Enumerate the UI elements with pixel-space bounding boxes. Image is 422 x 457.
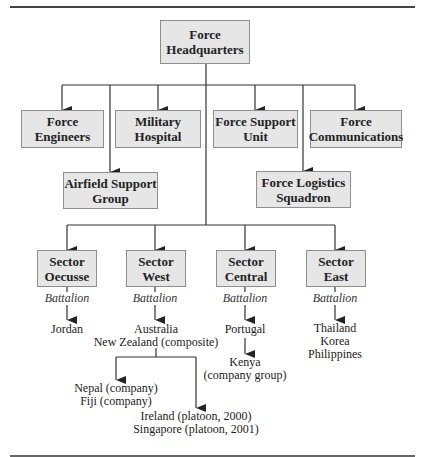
airfield-support-group-box: Airfield Support Group: [63, 172, 158, 209]
sector-central-battalion: Battalion: [223, 292, 268, 305]
sector-oecusse-label: Sector Oecusse: [45, 254, 90, 284]
force-communications-box: Force Communications: [310, 110, 402, 148]
force-support-unit-box: Force Support Unit: [213, 110, 298, 148]
sector-central-contributors: Portugal: [225, 323, 266, 336]
sector-west-label: Sector West: [138, 254, 173, 284]
sector-west-box: Sector West: [126, 250, 186, 287]
force-engineers-box: Force Engineers: [21, 110, 104, 148]
force-headquarters-label: Force Headquarters: [166, 27, 243, 57]
military-hospital-box: Military Hospital: [115, 110, 201, 148]
sector-oecusse-contributors: Jordan: [51, 323, 83, 336]
force-headquarters-box: Force Headquarters: [160, 20, 250, 64]
military-hospital-label: Military Hospital: [135, 114, 182, 144]
sector-east-label: Sector East: [318, 254, 353, 284]
airfield-support-group-label: Airfield Support Group: [64, 176, 156, 206]
force-logistics-squadron-box: Force Logistics Squadron: [256, 171, 351, 208]
force-support-unit-label: Force Support Unit: [215, 114, 295, 144]
force-engineers-label: Force Engineers: [35, 114, 91, 144]
sector-central-sub: Kenya (company group): [204, 356, 287, 382]
sector-east-box: Sector East: [306, 250, 366, 287]
sector-central-box: Sector Central: [216, 250, 276, 287]
sector-east-battalion: Battalion: [313, 292, 358, 305]
force-logistics-squadron-label: Force Logistics Squadron: [262, 175, 346, 205]
sector-west-sub-left: Nepal (company) Fiji (company): [74, 382, 158, 408]
sector-oecusse-battalion: Battalion: [45, 292, 90, 305]
sector-west-sub-right: Ireland (platoon, 2000) Singapore (plato…: [133, 410, 259, 436]
sector-central-label: Sector Central: [225, 254, 268, 284]
force-communications-label: Force Communications: [309, 114, 404, 144]
sector-west-battalion: Battalion: [133, 292, 178, 305]
sector-east-contributors: Thailand Korea Philippines: [308, 322, 362, 361]
connector-lines: [0, 0, 422, 457]
sector-oecusse-box: Sector Oecusse: [37, 250, 97, 287]
sector-west-contributors: Australia New Zealand (composite): [94, 323, 219, 349]
